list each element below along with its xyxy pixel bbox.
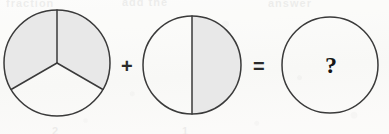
fraction-circle-two-thirds <box>0 0 120 134</box>
equals-operator: = <box>253 56 265 76</box>
worksheet-problem-canvas: fraction add the answer 2 1 + = <box>0 0 389 134</box>
unknown-answer-question-mark: ? <box>323 53 339 77</box>
plus-operator: + <box>121 56 133 76</box>
pie-sector-shaded-right <box>192 16 241 114</box>
fraction-circle-one-half <box>143 0 243 134</box>
